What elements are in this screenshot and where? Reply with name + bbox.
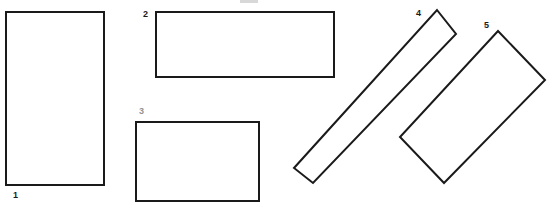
rectangle-4-label: 4	[416, 8, 421, 18]
rectangle-1-label: 1	[13, 190, 18, 200]
figure-canvas: 1 2 3 4 5	[0, 0, 557, 208]
cropped-text-remnant	[240, 0, 258, 3]
rectangle-2-label: 2	[143, 9, 148, 19]
rectangle-5-label: 5	[484, 20, 489, 30]
rectangle-1	[6, 12, 104, 185]
figure-svg: 1 2 3 4 5	[0, 0, 557, 208]
rectangle-3-label: 3	[139, 106, 144, 116]
rectangle-3	[136, 122, 259, 201]
rectangle-2	[156, 12, 334, 77]
